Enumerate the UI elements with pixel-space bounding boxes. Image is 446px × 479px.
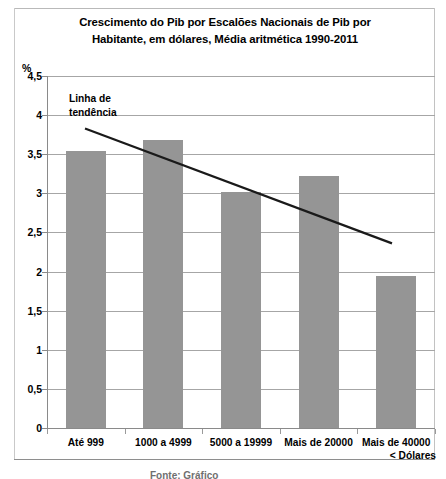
chart-title: Crescimento do Pib por Escalões Nacionai… — [40, 14, 410, 48]
y-axis-tick-mark — [42, 193, 47, 194]
x-axis-tick-mark — [125, 429, 126, 434]
y-axis-tick-label: 1,5 — [0, 306, 42, 316]
figure-border-bottom — [14, 459, 435, 460]
trendline-annotation-line-1: Linha de — [69, 93, 111, 104]
y-axis-tick-mark — [42, 76, 47, 77]
x-axis-tick-label: 5000 a 19999 — [198, 437, 284, 449]
chart-title-line-2: Habitante, em dólares, Média aritmética … — [92, 33, 358, 45]
trendline-annotation: Linha de tendência — [69, 92, 164, 120]
x-axis-tick-label: 1000 a 4999 — [121, 437, 207, 449]
y-axis-tick-mark — [42, 232, 47, 233]
y-axis-tick-label: 3 — [0, 188, 42, 198]
y-axis-tick-mark — [42, 389, 47, 390]
chart-title-line-1: Crescimento do Pib por Escalões Nacionai… — [79, 16, 371, 28]
y-axis-tick-mark — [42, 154, 47, 155]
x-axis-tick-mark — [47, 429, 48, 434]
y-axis-tick-label: 4 — [0, 110, 42, 120]
y-axis-tick-label: 0 — [0, 423, 42, 433]
x-axis-tick-mark — [202, 429, 203, 434]
y-axis-tick-label: 4,5 — [0, 71, 42, 81]
y-axis-tick-mark — [42, 311, 47, 312]
y-axis-tick-mark — [42, 350, 47, 351]
figure-border-top — [14, 8, 434, 9]
y-axis-tick-label: 1 — [0, 345, 42, 355]
y-axis-tick-mark — [42, 115, 47, 116]
x-axis-tick-mark — [280, 429, 281, 434]
x-axis-tick-label: Até 999 — [43, 437, 129, 449]
y-axis-tick-label: 3,5 — [0, 149, 42, 159]
chart-figure: Crescimento do Pib por Escalões Nacionai… — [0, 0, 446, 479]
y-axis-tick-label: 2 — [0, 267, 42, 277]
trendline — [47, 76, 435, 428]
x-axis-tick-label: Mais de 40000 — [353, 437, 439, 449]
plot-area — [47, 76, 435, 428]
trendline-annotation-line-2: tendência — [69, 107, 117, 118]
x-axis-tick-mark — [435, 429, 436, 434]
y-axis-tick-label: 0,5 — [0, 384, 42, 394]
x-axis-unit-label: < Dólares — [390, 450, 436, 461]
y-axis-tick-mark — [42, 272, 47, 273]
x-axis-tick-label: Mais de 20000 — [276, 437, 362, 449]
x-axis-tick-mark — [357, 429, 358, 434]
y-axis-tick-label: 2,5 — [0, 227, 42, 237]
x-axis-line — [47, 428, 435, 429]
clipped-footer-text: Fonte: Gráfico — [150, 470, 300, 479]
